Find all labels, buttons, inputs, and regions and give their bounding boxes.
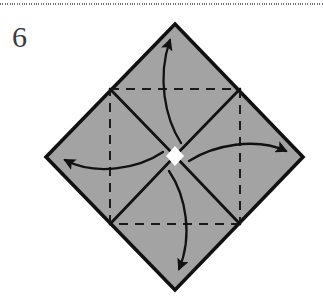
diagram-page: 6 bbox=[0, 0, 323, 297]
origami-diagram bbox=[0, 0, 323, 297]
